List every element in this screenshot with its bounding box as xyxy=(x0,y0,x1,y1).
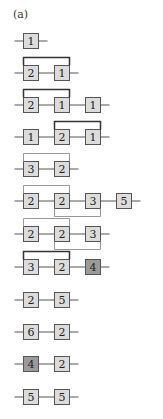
node-label: 2 xyxy=(59,261,66,274)
node-label: 1 xyxy=(59,67,66,80)
node-label: 2 xyxy=(59,228,66,241)
top-bracket xyxy=(24,219,70,227)
node-label: 2 xyxy=(59,131,66,144)
node-label: 4 xyxy=(90,261,97,274)
node-label: 3 xyxy=(90,228,97,241)
node-label: 2 xyxy=(59,195,66,208)
node-label: 1 xyxy=(28,35,35,48)
node-label: 1 xyxy=(28,131,35,144)
node-label: 5 xyxy=(59,391,66,404)
node-label: 4 xyxy=(28,358,35,371)
node-label: 2 xyxy=(59,326,66,339)
bottom-bracket xyxy=(55,242,101,250)
top-bracket xyxy=(55,122,101,130)
node-label: 5 xyxy=(28,391,35,404)
node-label: 1 xyxy=(90,99,97,112)
node-label: 3 xyxy=(90,195,97,208)
node-label: 5 xyxy=(121,195,128,208)
node-label: 2 xyxy=(59,358,66,371)
top-bracket xyxy=(24,58,70,66)
node-label: 3 xyxy=(28,163,35,176)
bottom-bracket xyxy=(55,209,101,217)
node-label: 3 xyxy=(28,261,35,274)
node-label: 2 xyxy=(28,99,35,112)
node-label: 2 xyxy=(28,67,35,80)
node-label: 2 xyxy=(28,228,35,241)
node-label: 1 xyxy=(59,99,66,112)
node-label: 2 xyxy=(28,294,35,307)
node-label: 2 xyxy=(28,195,35,208)
node-label: 6 xyxy=(28,326,35,339)
top-bracket xyxy=(24,186,70,194)
top-bracket xyxy=(24,252,70,260)
node-label: 5 xyxy=(59,294,66,307)
node-label: 1 xyxy=(90,131,97,144)
top-bracket xyxy=(24,90,70,98)
node-label: 2 xyxy=(59,163,66,176)
chain-diagram: 12121112132223522332425624255 xyxy=(0,0,163,419)
top-bracket xyxy=(24,154,70,162)
